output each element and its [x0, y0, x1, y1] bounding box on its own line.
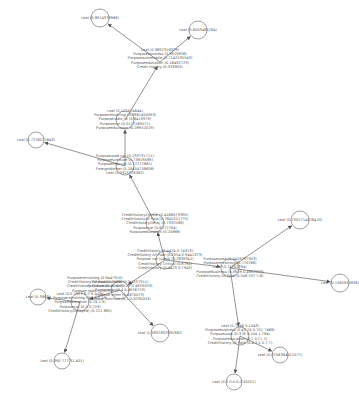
- node-label: Purposeused car (0.233731711)Purposefurn…: [96, 154, 155, 175]
- node-label: Leaf (0.127574644)Purposeretraining (0.3…: [94, 109, 156, 130]
- node-label-line: Purposenew car (0.77272681): [96, 162, 155, 166]
- node-label-line: CreditHistory Critical (0.47 0.8): [67, 284, 123, 288]
- node-label-line: Purpose car (used) (0.2839341): [128, 257, 203, 261]
- node-label: Leaf (0.3863): [26, 295, 50, 299]
- node-label: CreditHistory (0.4424 0.74313)CreditHist…: [128, 249, 203, 270]
- node-label: CreditHistoryCritical (0.4168079395)Cred…: [122, 213, 189, 234]
- node-label-line: Leaf (0.7276571643): [17, 138, 55, 142]
- node-label-line: Purposeeducation (0.25888): [122, 230, 189, 234]
- node-label: Purposeused (0.4419787953)Purposeretrain…: [196, 257, 263, 278]
- node-label: Leaf (0.7276571643): [17, 138, 55, 142]
- node-label: Leaf (0.7302714576420): [278, 218, 323, 222]
- node-label: Purposeretraining (0.9447910)CreditHisto…: [67, 276, 123, 293]
- node-label-line: CreditHistoryDelay (0.7332588): [122, 221, 189, 225]
- node-label-line: Leaf (1.5832832935362): [138, 331, 183, 335]
- node-label-line: Leaf (0.7302714576420): [278, 218, 323, 222]
- node-label-line: Leaf (0.1585952836): [321, 281, 359, 285]
- node-label: Leaf (1.5832832935362): [138, 331, 183, 335]
- node-label: Leaf (0.3697316329)Purposebusiness (0.39…: [128, 48, 193, 69]
- node-label-line: Purposeeducation (0.74 1.9): [48, 300, 111, 304]
- node-label-line: Leaf (0.3 0.0 0.0 50551): [212, 380, 256, 384]
- node-label: Leaf (0.3756384011077): [258, 353, 303, 357]
- node-label-line: CreditHistory All Paid (0.4 2.5 0.7 7): [205, 341, 274, 345]
- node-label-line: Purposesuse (0.378 0.104 1.784): [205, 332, 274, 336]
- node-label-line: Leaf (0.0315378082): [96, 171, 155, 175]
- node-label-line: CreditHistory(Delayed) (0.221 885): [48, 309, 111, 313]
- node-label-line: Purposeradio_tv (0.8413979): [94, 117, 156, 121]
- node-label: Leaf (0.3 0.0 0.0 50551): [212, 380, 256, 384]
- node-label: Leaf (0.6503485764): [179, 28, 217, 32]
- node-label-line: Leaf (0.8974378966): [81, 16, 119, 20]
- node-label-line: Purposeeducation (0.28952019): [94, 126, 156, 130]
- edges: [45, 24, 330, 373]
- node-label-line: Purposeautomobile (0.7142035543): [128, 56, 193, 60]
- node-label-line: CreditHistory All Paid (0.248 197 7.6): [196, 274, 263, 278]
- node-label: Leaf (0.7546 0.1043)Purposebusiness (0.4…: [205, 324, 274, 345]
- node-label-line: Credit History (0.328805): [128, 65, 193, 69]
- node-label-line: Leaf (0.390 777 31 401): [40, 359, 84, 363]
- node-label-line: Leaf (0.3863): [26, 295, 50, 299]
- node-label-line: CreditHistory (0.4423 0.7943): [128, 266, 203, 270]
- node-label: Leaf (0.8974378966): [81, 16, 119, 20]
- node-label: Leaf (0.390 777 31 401): [40, 359, 84, 363]
- node-label: Leaf (0.0 1917 6.2 9.1 79)Purposeretrain…: [48, 292, 111, 313]
- node-label-line: Leaf (0.6503485764): [179, 28, 217, 32]
- node-label: Leaf (0.1585952836): [321, 281, 359, 285]
- node-label-line: Leaf (0.3756384011077): [258, 353, 303, 357]
